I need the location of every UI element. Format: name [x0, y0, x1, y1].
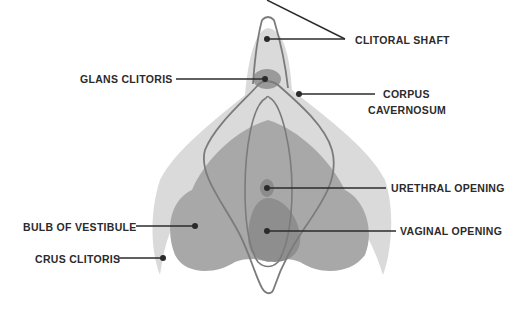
- label-urethral-opening: URETHRAL OPENING: [391, 182, 505, 194]
- label-bulb-of-vestibule: BULB OF VESTIBULE: [23, 221, 137, 233]
- label-clitoral-shaft: CLITORAL SHAFT: [355, 34, 450, 46]
- label-vaginal-opening: VAGINAL OPENING: [400, 225, 502, 237]
- label-corpus-cavernosum-1: CORPUS: [383, 88, 430, 100]
- label-glans-clitoris: GLANS CLITORIS: [80, 73, 173, 85]
- label-corpus-cavernosum-2: CAVERNOSUM: [368, 104, 446, 116]
- label-crus-clitoris: CRUS CLITORIS: [35, 253, 120, 265]
